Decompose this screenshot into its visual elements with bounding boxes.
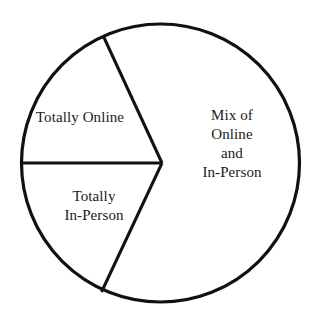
slice-label-totally-in-person: Totally In-Person [44, 187, 144, 225]
slice-label-mix-of-online-and-in-person: Mix of Online and In-Person [182, 106, 282, 182]
pie-chart: Mix of Online and In-Person Totally Onli… [0, 0, 319, 325]
slice-label-totally-online: Totally Online [18, 108, 142, 127]
